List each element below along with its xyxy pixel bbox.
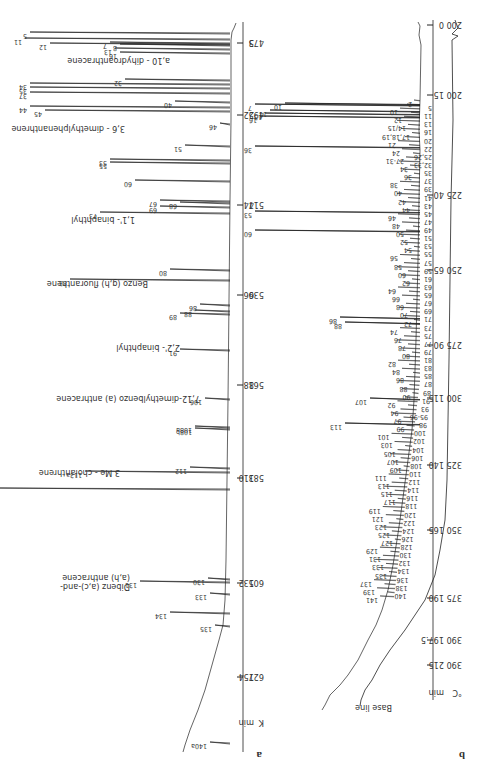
peak-label: 21 bbox=[388, 141, 396, 149]
peak-label: 12 bbox=[394, 116, 402, 124]
peak-label: 16 bbox=[424, 128, 432, 136]
peak-label: 20 bbox=[424, 137, 432, 145]
tick-label-c: 390 bbox=[447, 635, 462, 645]
peak bbox=[411, 259, 420, 260]
peak-label: 32 bbox=[114, 79, 122, 87]
peak-label: 127 bbox=[381, 539, 393, 547]
peak bbox=[395, 441, 413, 442]
peak-label: 37 bbox=[424, 177, 432, 185]
peak-label: 113 bbox=[330, 423, 342, 431]
compound-label: 7,12-dimethylbenzo (a) anthracene bbox=[56, 394, 200, 404]
peak-label: 8 bbox=[113, 44, 117, 52]
peak bbox=[115, 48, 230, 50]
panel-a-peaks bbox=[0, 32, 230, 744]
peak-label: 138 bbox=[396, 584, 408, 592]
peak-label: 122 bbox=[403, 519, 415, 527]
panel-b-label: b bbox=[459, 750, 465, 762]
peak-label: 80 bbox=[402, 352, 410, 360]
peak bbox=[402, 437, 413, 438]
peak-label: 82 bbox=[388, 360, 396, 368]
peak bbox=[409, 145, 420, 146]
peak bbox=[408, 198, 420, 199]
peak bbox=[220, 123, 230, 125]
peak-label: 121 bbox=[372, 515, 384, 523]
tick-label-k: 627 bbox=[249, 672, 264, 682]
peak bbox=[30, 106, 230, 108]
peak bbox=[406, 376, 420, 377]
peak bbox=[411, 185, 420, 186]
peak bbox=[385, 584, 396, 585]
peak-label: 68 bbox=[396, 303, 404, 311]
peak bbox=[412, 279, 420, 280]
peak bbox=[408, 344, 420, 345]
peak-label: 11 bbox=[424, 112, 432, 120]
peak bbox=[45, 110, 230, 112]
peak-label: 125 bbox=[378, 531, 390, 539]
peak bbox=[392, 531, 402, 532]
peak-label: 81 bbox=[424, 356, 432, 364]
peak bbox=[180, 202, 230, 204]
peak bbox=[402, 222, 420, 223]
peak-label: 131 bbox=[369, 555, 381, 563]
peak-label: 124 bbox=[402, 527, 414, 535]
compound-label: Benzo (g,h) fluoranthene bbox=[47, 279, 148, 289]
peak-label: 13 bbox=[424, 120, 432, 128]
peak bbox=[195, 310, 230, 312]
peak bbox=[185, 145, 230, 147]
peak bbox=[414, 100, 420, 101]
peak-label: 118 bbox=[405, 502, 417, 510]
peak bbox=[30, 83, 230, 85]
peak-label: 64 bbox=[388, 287, 396, 295]
peak-label: 51 bbox=[174, 145, 182, 153]
peak-label: 55 bbox=[99, 162, 107, 170]
tick-label-min: 0 bbox=[439, 20, 444, 30]
tick-label-k: 561 bbox=[249, 380, 264, 390]
peak-label: 78 bbox=[398, 344, 406, 352]
peak-label: 63 bbox=[424, 283, 432, 291]
peak bbox=[395, 490, 407, 491]
tick-label-c: 275 bbox=[447, 340, 462, 350]
peak-label: 140a bbox=[191, 742, 207, 750]
tick-label-c: 225 bbox=[447, 190, 462, 200]
peak bbox=[195, 426, 230, 428]
peak-label: 60 bbox=[398, 271, 406, 279]
peak-label: 94 bbox=[391, 409, 399, 417]
tick-label-c: 325 bbox=[447, 460, 462, 470]
peak bbox=[414, 246, 420, 247]
peak-label: 32,33 bbox=[414, 161, 432, 169]
peak-label: 12 bbox=[39, 43, 47, 51]
peak bbox=[380, 596, 394, 597]
peak bbox=[370, 398, 420, 400]
peak-label: 88 bbox=[399, 385, 407, 393]
peak-label: 49 bbox=[424, 226, 432, 234]
peak-label: 46 bbox=[209, 123, 217, 131]
peak-label: 44 bbox=[402, 206, 410, 214]
peak-label: 40 bbox=[164, 101, 172, 109]
peak bbox=[413, 299, 420, 300]
peak-label: 133 bbox=[195, 593, 207, 601]
peak-label: 55 bbox=[424, 250, 432, 258]
peak-label: 16 bbox=[249, 116, 257, 124]
peak-label: 102 bbox=[413, 437, 425, 445]
peak-label: 130 bbox=[193, 578, 205, 586]
peak-label: 92 bbox=[387, 401, 395, 409]
peak-label: 141 bbox=[366, 596, 378, 604]
peak bbox=[404, 189, 420, 190]
compound-label: 3,6 - dimethylphenanthrene bbox=[11, 124, 125, 134]
peak bbox=[408, 405, 417, 406]
peak bbox=[200, 304, 230, 306]
peak bbox=[414, 320, 420, 321]
peak bbox=[345, 423, 420, 425]
peak bbox=[25, 38, 230, 40]
peak bbox=[255, 211, 420, 213]
peak-label: 57 bbox=[424, 259, 432, 267]
peak bbox=[405, 446, 412, 447]
peak bbox=[412, 393, 418, 394]
peak-label: 112 bbox=[175, 467, 187, 475]
compound-label: 2,2'- binaphthyl bbox=[116, 343, 180, 353]
peak bbox=[30, 87, 230, 89]
peak-label: 73 bbox=[424, 324, 432, 332]
peak-label: 135 bbox=[375, 572, 387, 580]
peak-label: 62 bbox=[402, 279, 410, 287]
peak-label: 71 bbox=[424, 315, 432, 323]
